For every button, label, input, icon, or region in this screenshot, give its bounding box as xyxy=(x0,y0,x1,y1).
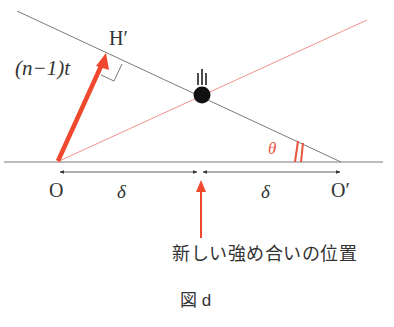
diagram-graphics xyxy=(0,0,394,327)
new-position-pointer-head xyxy=(196,180,206,192)
delta-left-label: δ xyxy=(117,182,126,201)
path-difference-label: (n−1)t xyxy=(15,58,70,79)
angle-arc-outer xyxy=(295,141,298,162)
figure-caption: 図 d xyxy=(180,292,211,309)
particle-icon xyxy=(194,69,211,104)
angle-theta-label: θ xyxy=(268,140,276,157)
new-position-label: 新しい強め合いの位置 xyxy=(172,245,357,263)
path-difference-arrowhead xyxy=(96,53,109,70)
point-o-label: O xyxy=(49,180,63,200)
delta-right-label: δ xyxy=(261,182,270,201)
point-h-prime-label: H′ xyxy=(109,28,128,48)
angle-arc-inner xyxy=(301,143,303,162)
diagram-figure-d: (n−1)t H′ θ O δ δ O′ 新しい強め合いの位置 図 d xyxy=(0,0,394,327)
point-o-prime-label: O′ xyxy=(331,180,350,200)
thin-red-line xyxy=(57,20,367,162)
